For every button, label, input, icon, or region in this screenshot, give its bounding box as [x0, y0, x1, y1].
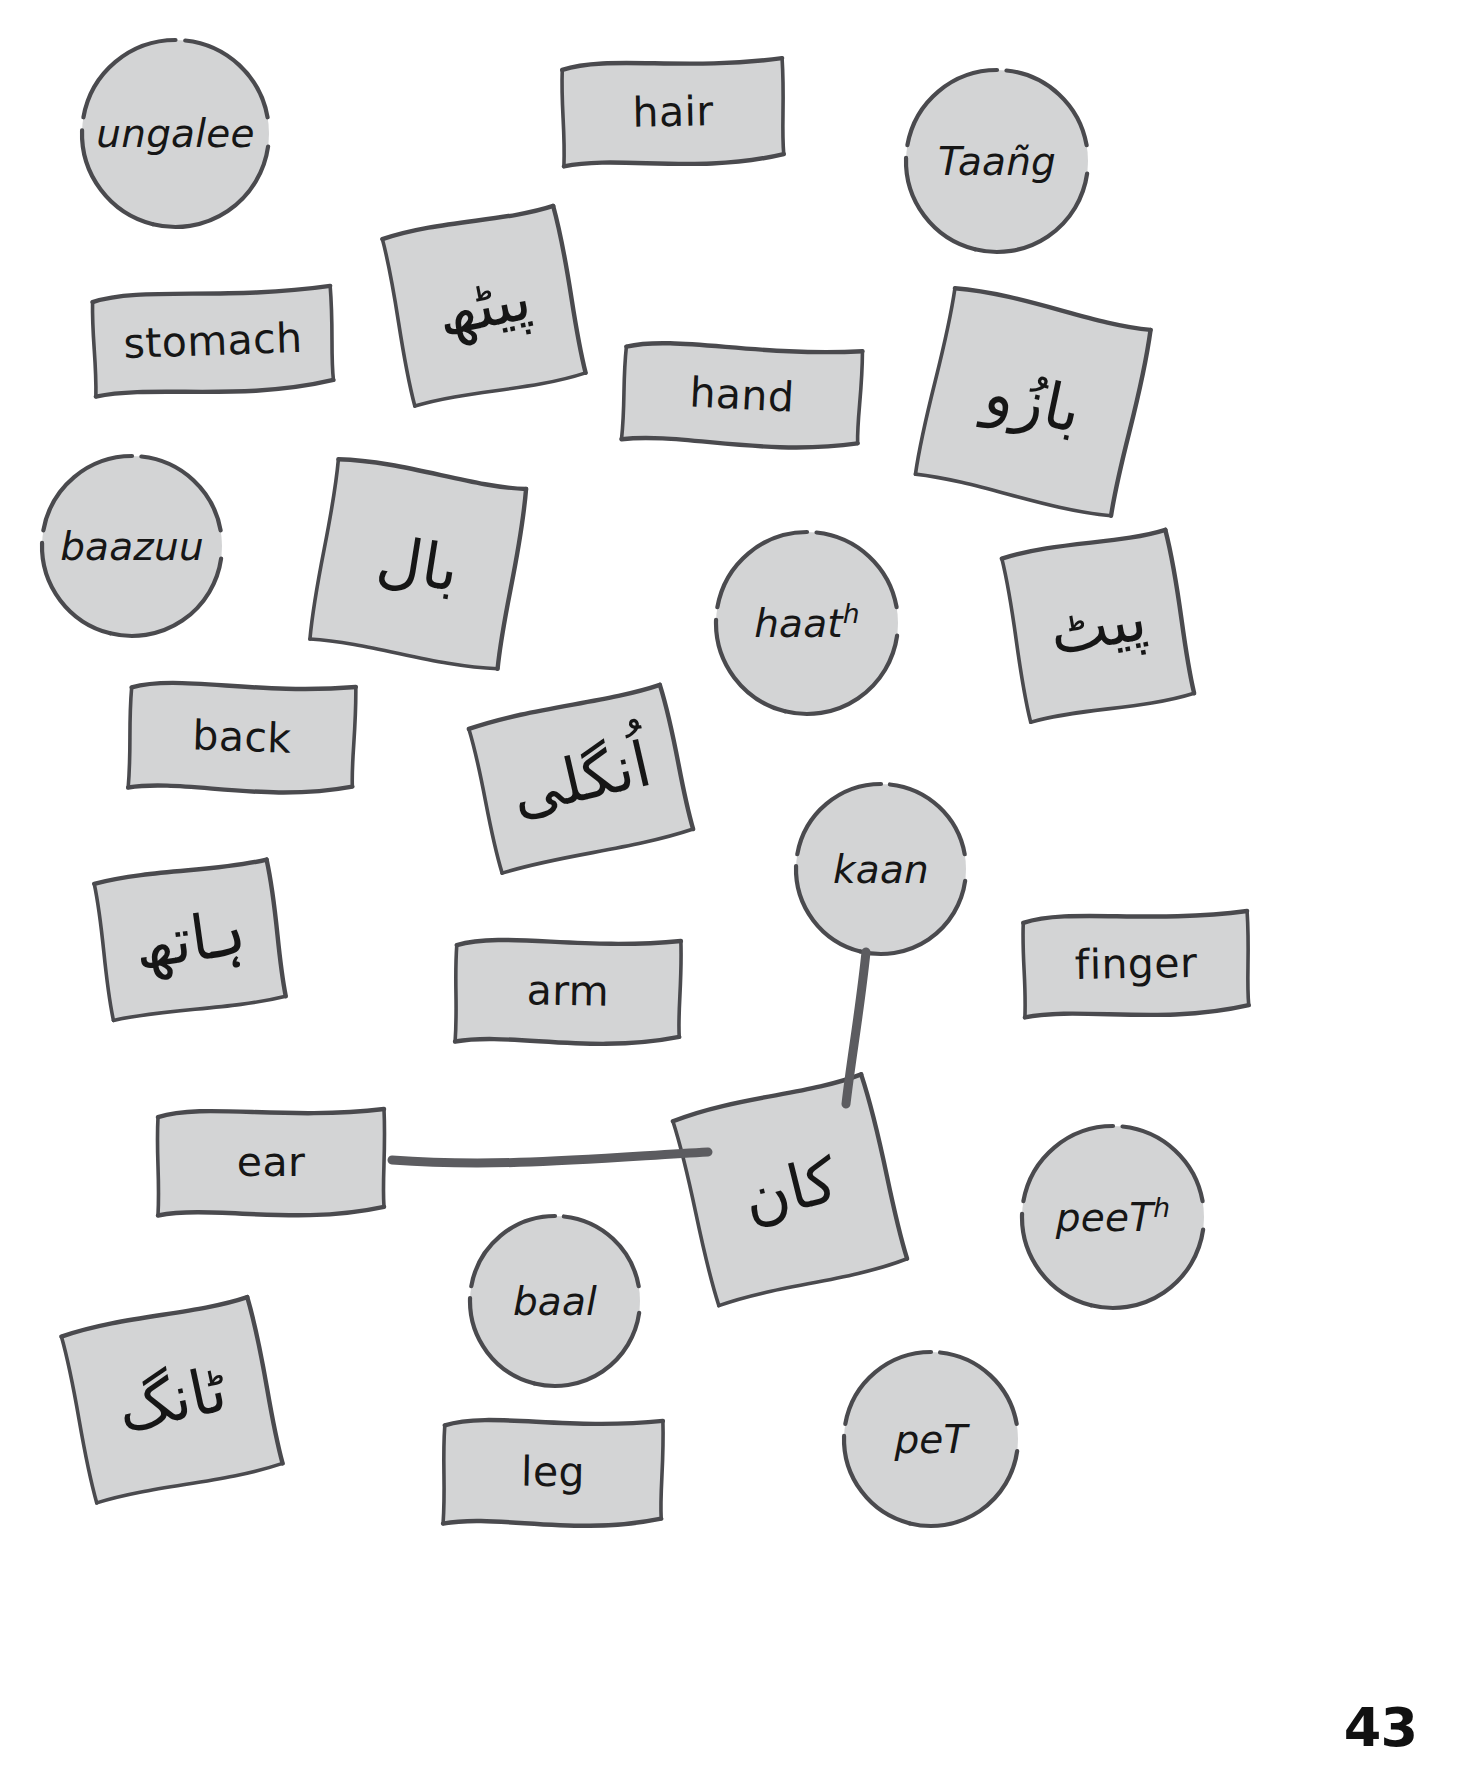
card-kaan[interactable]: kaan [792, 780, 970, 958]
card-hair[interactable]: hair [556, 51, 790, 173]
banner-card-shape [152, 1102, 390, 1222]
worksheet-canvas: ungaleehairTaañgstomachپیٹھhandبازُوbaaz… [0, 0, 1463, 1781]
circle-card-shape [1018, 1122, 1208, 1312]
circle-card-shape [78, 36, 273, 231]
banner-card-shape [449, 930, 687, 1052]
page-number: 43 [1344, 1696, 1417, 1759]
square-card-shape [463, 679, 699, 879]
card-baazuu[interactable]: baazuu [38, 452, 226, 640]
card-pet[interactable]: peT [840, 1348, 1022, 1530]
card-stomach[interactable]: stomach [86, 279, 340, 404]
square-card-shape [377, 200, 592, 412]
circle-card-shape [902, 66, 1092, 256]
circle-card-shape [466, 1212, 644, 1390]
square-card-shape [996, 524, 1200, 728]
card-arm[interactable]: arm [449, 930, 687, 1052]
square-card-shape [910, 282, 1157, 521]
banner-card-shape [122, 672, 362, 802]
card-urdu-kaan[interactable]: کان [667, 1068, 913, 1311]
card-ungalee[interactable]: ungalee [78, 36, 273, 231]
link-ear-urdu [392, 1152, 708, 1163]
card-urdu-haath[interactable]: ہاتھ [89, 854, 292, 1026]
square-card-shape [55, 1291, 288, 1509]
card-peeth[interactable]: peeTh [1018, 1122, 1208, 1312]
banner-card-shape [437, 1410, 669, 1534]
banner-card-shape [556, 51, 790, 173]
card-haath[interactable]: haath [712, 528, 902, 718]
circle-card-shape [792, 780, 970, 958]
card-urdu-taang[interactable]: ٹانگ [55, 1291, 288, 1509]
card-urdu-baazuu[interactable]: بازُو [910, 282, 1157, 521]
banner-card-shape [86, 279, 340, 404]
card-back[interactable]: back [122, 672, 362, 802]
banner-card-shape [1017, 904, 1255, 1024]
square-card-shape [89, 854, 292, 1026]
circle-card-shape [840, 1348, 1022, 1530]
card-leg[interactable]: leg [437, 1410, 669, 1534]
square-card-shape [667, 1068, 913, 1311]
square-card-shape [304, 454, 532, 675]
card-finger[interactable]: finger [1017, 904, 1255, 1024]
circle-card-shape [712, 528, 902, 718]
card-hand[interactable]: hand [615, 332, 869, 459]
card-urdu-peeth-2[interactable]: پیٹ [996, 524, 1200, 728]
banner-card-shape [615, 332, 869, 459]
card-baal[interactable]: baal [466, 1212, 644, 1390]
card-urdu-peeth[interactable]: پیٹھ [377, 200, 592, 412]
card-taang[interactable]: Taañg [902, 66, 1092, 256]
card-ear[interactable]: ear [152, 1102, 390, 1222]
circle-card-shape [38, 452, 226, 640]
card-urdu-ungalee[interactable]: اُنگلی [463, 679, 699, 879]
card-urdu-baal[interactable]: بال [304, 454, 532, 675]
